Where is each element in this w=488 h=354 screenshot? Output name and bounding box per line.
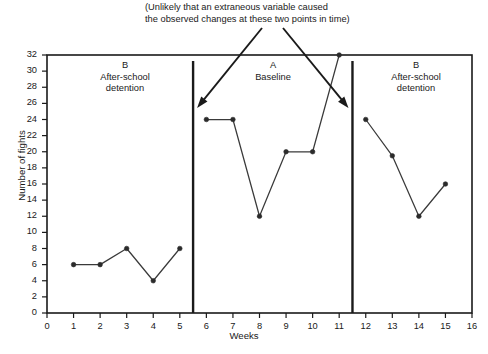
x-tick-label: 9	[276, 321, 296, 331]
phase-label-a: A Baseline	[218, 60, 328, 83]
y-tick-label: 28	[15, 81, 37, 91]
data-point	[390, 153, 395, 158]
data-point	[124, 246, 129, 251]
phase-letter-a: A	[218, 60, 328, 72]
y-tick-label: 10	[15, 226, 37, 236]
x-tick-label: 1	[64, 321, 84, 331]
y-tick-label: 6	[15, 259, 37, 269]
annotation-line-1: (Unlikely that an extraneous variable ca…	[145, 1, 381, 13]
line-chart: (Unlikely that an extraneous variable ca…	[0, 0, 488, 354]
phase-label-b1: B After-school detention	[62, 60, 188, 95]
x-tick-label: 7	[223, 321, 243, 331]
y-tick-label: 30	[15, 65, 37, 75]
y-tick-label: 8	[15, 243, 37, 253]
data-point	[178, 246, 183, 251]
y-tick-label: 4	[15, 275, 37, 285]
x-tick-label: 16	[462, 321, 482, 331]
annotation-line-2: the observed changes at these two points…	[145, 13, 381, 25]
x-tick-label: 5	[170, 321, 190, 331]
y-tick-label: 16	[15, 178, 37, 188]
x-tick-label: 8	[250, 321, 270, 331]
x-tick-label: 4	[143, 321, 163, 331]
data-point	[98, 262, 103, 267]
phase-desc-b1-line2: detention	[62, 83, 188, 95]
y-tick-label: 14	[15, 194, 37, 204]
y-tick-label: 0	[15, 307, 37, 317]
y-tick-label: 32	[15, 49, 37, 59]
x-tick-label: 15	[435, 321, 455, 331]
x-axis-title: Weeks	[199, 330, 289, 341]
data-point	[151, 278, 156, 283]
y-tick-label: 18	[15, 162, 37, 172]
y-tick-label: 24	[15, 114, 37, 124]
phase-letter-b2: B	[360, 60, 472, 72]
series-line-0	[74, 249, 180, 281]
data-point	[231, 117, 236, 122]
data-point	[310, 149, 315, 154]
data-point	[71, 262, 76, 267]
data-point	[417, 214, 422, 219]
y-tick-label: 2	[15, 291, 37, 301]
data-point	[443, 182, 448, 187]
phase-desc-b2-line2: detention	[360, 83, 472, 95]
x-tick-label: 6	[196, 321, 216, 331]
phase-desc-a-line1: Baseline	[218, 72, 328, 84]
phase-desc-b2-line1: After-school	[360, 72, 472, 84]
data-point	[337, 53, 342, 58]
series-line-2	[366, 120, 446, 217]
data-point	[363, 117, 368, 122]
y-tick-label: 20	[15, 146, 37, 156]
data-point	[284, 149, 289, 154]
phase-letter-b1: B	[62, 60, 188, 72]
data-point	[204, 117, 209, 122]
x-tick-label: 12	[356, 321, 376, 331]
x-tick-label: 0	[37, 321, 57, 331]
phase-desc-b1-line1: After-school	[62, 72, 188, 84]
x-tick-label: 14	[409, 321, 429, 331]
x-tick-label: 13	[382, 321, 402, 331]
x-tick-label: 2	[90, 321, 110, 331]
y-tick-label: 22	[15, 130, 37, 140]
data-point	[257, 214, 262, 219]
x-tick-label: 11	[329, 321, 349, 331]
y-tick-label: 12	[15, 210, 37, 220]
x-tick-label: 3	[117, 321, 137, 331]
annotation-extraneous-variable: (Unlikely that an extraneous variable ca…	[145, 1, 381, 25]
phase-divider-lines	[193, 61, 352, 313]
plot-area	[0, 0, 488, 354]
y-tick-label: 26	[15, 97, 37, 107]
phase-label-b2: B After-school detention	[360, 60, 472, 95]
x-tick-label: 10	[303, 321, 323, 331]
